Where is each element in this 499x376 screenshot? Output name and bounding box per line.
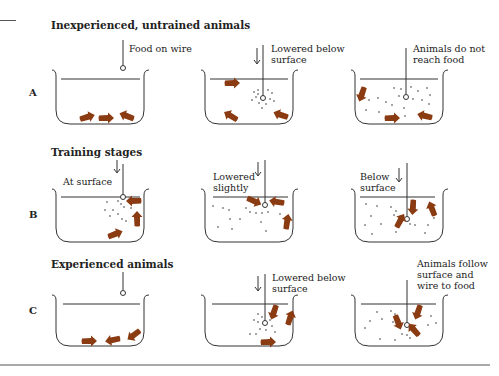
food-particles-b2	[212, 205, 281, 232]
bowl-c2	[201, 274, 298, 346]
bowl-b3	[351, 163, 448, 242]
bowl-a3	[351, 48, 448, 124]
experiment-diagram	[0, 0, 499, 376]
bowl-a2	[201, 45, 298, 124]
animals-a3	[354, 85, 434, 123]
animals-c3	[390, 303, 425, 339]
animals-b1	[106, 196, 142, 242]
animals-b2	[245, 193, 294, 230]
animals-c1	[82, 326, 144, 347]
bowl-a1	[52, 40, 149, 124]
bowl-c3	[351, 280, 448, 346]
food-particles-b1	[104, 200, 132, 222]
animals-a2	[221, 78, 290, 125]
animals-b3	[391, 199, 439, 230]
animals-a1	[78, 108, 136, 124]
